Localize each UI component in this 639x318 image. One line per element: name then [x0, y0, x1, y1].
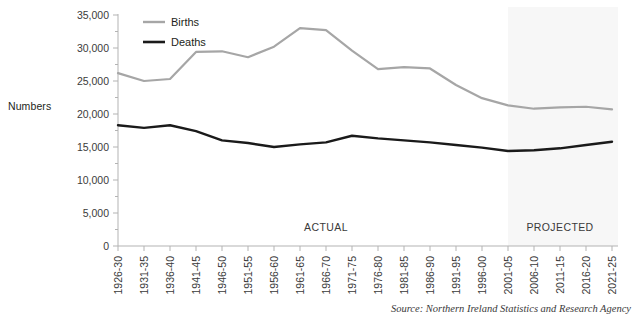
y-axis-tick-label: 35,000	[77, 9, 109, 21]
x-axis-tick-label: 2016-20	[580, 256, 592, 295]
births-deaths-line-chart: Numbers 05,00010,00015,00020,00025,00030…	[0, 0, 639, 318]
x-axis-tick-label: 1971-75	[346, 256, 358, 295]
y-axis-tick-label: 20,000	[77, 108, 109, 120]
x-axis-tick-label: 1931-35	[138, 256, 150, 295]
x-axis-tick-label: 1996-00	[476, 256, 488, 295]
x-axis-tick-label: 1986-90	[424, 256, 436, 295]
x-axis-tick-label: 2001-05	[502, 256, 514, 295]
x-axis-tick-label: 1941-45	[190, 256, 202, 295]
y-axis-tick-label: 30,000	[77, 42, 109, 54]
y-axis-tick-label: 5,000	[83, 207, 109, 219]
x-axis-tick-label: 1946-50	[216, 256, 228, 295]
y-axis-tick-label: 0	[103, 240, 109, 252]
x-axis-tick-label: 1936-40	[164, 256, 176, 295]
y-axis-tick-label: 15,000	[77, 141, 109, 153]
x-axis-tick-label: 1991-95	[450, 256, 462, 295]
y-axis-tick-label: 25,000	[77, 75, 109, 87]
projected-shading-band	[508, 7, 618, 246]
y-axis: 05,00010,00015,00020,00025,00030,00035,0…	[77, 9, 118, 252]
chart-canvas: 05,00010,00015,00020,00025,00030,00035,0…	[0, 0, 639, 318]
region-annotations: ACTUALPROJECTED	[304, 221, 594, 233]
x-axis-tick-label: 1966-70	[320, 256, 332, 295]
x-axis-tick-label: 1951-55	[242, 256, 254, 295]
region-label-actual: ACTUAL	[304, 221, 348, 233]
x-axis-tick-label: 1961-65	[294, 256, 306, 295]
x-axis: 1926-301931-351936-401941-451946-501951-…	[112, 246, 618, 295]
x-axis-tick-label: 1956-60	[268, 256, 280, 295]
source-attribution: Source: Northern Ireland Statistics and …	[391, 303, 631, 314]
x-axis-tick-label: 2021-25	[606, 256, 618, 295]
x-axis-tick-label: 1926-30	[112, 256, 124, 295]
x-axis-tick-label: 2011-15	[554, 256, 566, 294]
chart-legend: BirthsDeaths	[143, 16, 206, 48]
x-axis-tick-label: 1981-85	[398, 256, 410, 295]
legend-label-births: Births	[171, 16, 200, 28]
x-axis-tick-label: 1976-80	[372, 256, 384, 295]
legend-label-deaths: Deaths	[171, 36, 206, 48]
y-axis-tick-label: 10,000	[77, 174, 109, 186]
x-axis-tick-label: 2006-10	[528, 256, 540, 295]
region-label-projected: PROJECTED	[526, 221, 593, 233]
